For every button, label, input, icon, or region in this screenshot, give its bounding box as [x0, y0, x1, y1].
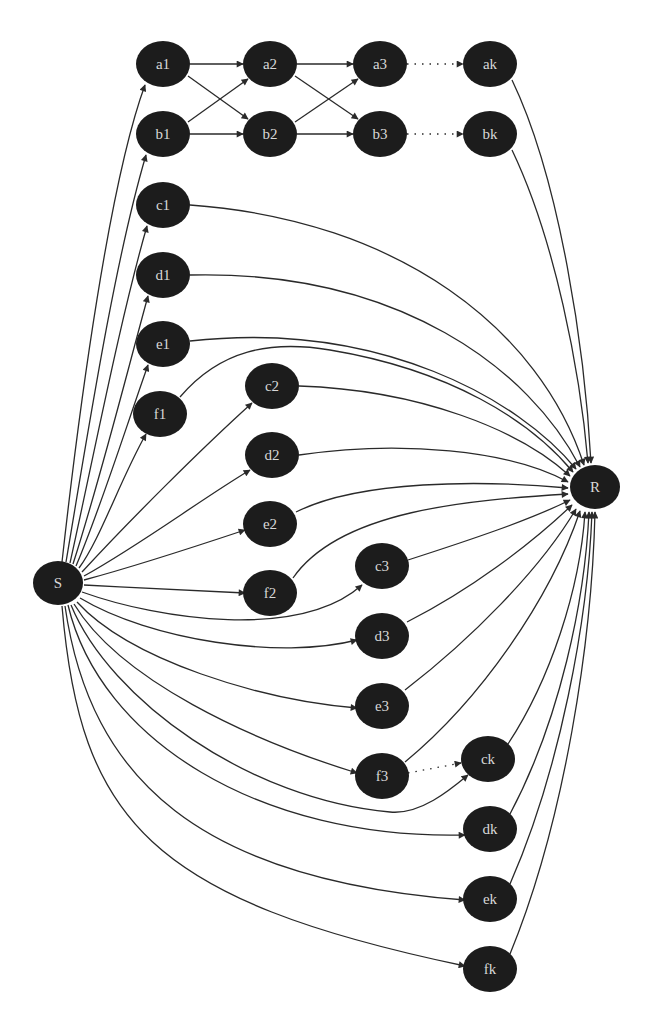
edge-a1-b2 [188, 76, 248, 119]
node-label: ck [481, 751, 496, 767]
edge-S-c3 [82, 585, 362, 620]
node-bk: bk [463, 111, 517, 157]
node-label: fk [484, 961, 497, 977]
node-label: R [590, 479, 600, 495]
edge-b1-a2 [188, 79, 248, 122]
node-R: R [570, 465, 620, 509]
node-c1: c1 [136, 182, 190, 228]
edge-f2-R [293, 494, 568, 578]
node-b2: b2 [243, 111, 297, 157]
edge-S-b1 [66, 155, 146, 562]
edge-d2-R [299, 448, 568, 482]
node-label: ek [483, 891, 498, 907]
edge-e3-R [405, 509, 576, 690]
node-label: c2 [265, 378, 279, 394]
node-S: S [33, 561, 83, 605]
node-c2: c2 [245, 363, 299, 409]
edge-S-ek [65, 606, 465, 900]
edge-b2-a3 [295, 79, 358, 122]
node-label: ak [483, 56, 498, 72]
edge-d1-R [190, 275, 580, 467]
node-e2: e2 [243, 501, 297, 547]
node-e1: e1 [136, 321, 190, 367]
edge-S-e2 [84, 530, 245, 580]
edge-S-d3 [80, 598, 357, 648]
edge-f3-ck [408, 763, 461, 773]
node-label: d1 [156, 267, 171, 283]
edge-S-d1 [73, 296, 148, 564]
node-label: e3 [375, 698, 389, 714]
node-label: b3 [373, 126, 388, 142]
node-label: a3 [373, 56, 387, 72]
node-dk: dk [463, 806, 517, 852]
node-d2: d2 [245, 432, 299, 478]
node-label: a1 [156, 56, 170, 72]
node-label: d2 [265, 447, 280, 463]
edge-e2-R [296, 484, 568, 512]
node-label: d3 [375, 628, 390, 644]
edge-f3-R [405, 511, 580, 762]
edge-bk-R [512, 150, 588, 463]
node-label: a2 [263, 56, 277, 72]
node-label: f1 [154, 406, 167, 422]
node-d1: d1 [136, 252, 190, 298]
node-c3: c3 [355, 543, 409, 589]
node-label: bk [483, 126, 499, 142]
edge-a2-b3 [295, 76, 358, 119]
node-ck: ck [461, 736, 515, 782]
node-f1: f1 [133, 391, 187, 437]
node-label: f2 [264, 585, 277, 601]
node-label: c1 [156, 197, 170, 213]
node-fk: fk [463, 946, 517, 992]
node-b1: b1 [136, 111, 190, 157]
node-label: f3 [376, 768, 389, 784]
edge-ck-R [508, 512, 585, 744]
node-label: e1 [156, 336, 170, 352]
node-label: c3 [375, 558, 389, 574]
node-f3: f3 [355, 753, 409, 799]
node-a3: a3 [353, 41, 407, 87]
edge-S-e1 [76, 365, 148, 566]
node-e3: e3 [355, 683, 409, 729]
node-label: b1 [156, 126, 171, 142]
node-a2: a2 [243, 41, 297, 87]
node-ek: ek [463, 876, 517, 922]
edge-S-f2 [84, 585, 245, 593]
node-label: e2 [263, 516, 277, 532]
edge-ak-R [512, 80, 591, 463]
node-label: dk [483, 821, 499, 837]
node-b3: b3 [353, 111, 407, 157]
node-ak: ak [463, 41, 517, 87]
node-f2: f2 [243, 570, 297, 616]
edge-d3-R [407, 505, 572, 622]
node-d3: d3 [355, 613, 409, 659]
edge-S-f1 [79, 434, 146, 568]
edge-S-d2 [84, 470, 250, 576]
graph-diagram: a1a2a3akb1b2b3bkc1d1e1f1c2d2e2f2c3d3e3f3… [0, 0, 659, 1026]
edge-c1-R [190, 205, 584, 465]
edge-S-a1 [62, 85, 145, 562]
node-label: S [54, 575, 62, 591]
node-a1: a1 [136, 41, 190, 87]
node-label: b2 [263, 126, 278, 142]
edge-f1-R [180, 346, 573, 472]
